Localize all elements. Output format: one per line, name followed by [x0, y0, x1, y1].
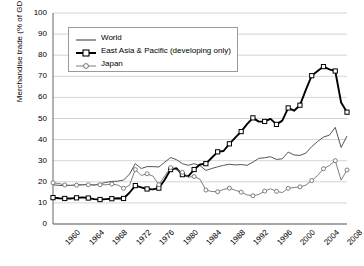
- legend-key-square-marker-icon: [75, 45, 97, 57]
- data-point: [110, 197, 114, 201]
- legend-label-world: World: [101, 33, 122, 42]
- data-point: [51, 196, 55, 200]
- data-point: [310, 179, 314, 183]
- data-point: [204, 188, 208, 192]
- data-point: [75, 183, 79, 187]
- data-point: [333, 159, 337, 163]
- data-point: [192, 175, 196, 179]
- data-point: [74, 196, 78, 200]
- data-point: [145, 172, 149, 176]
- y-axis-tick-label: 0: [17, 220, 47, 228]
- data-point: [286, 186, 290, 190]
- data-point: [216, 150, 220, 154]
- y-axis-tick-label: 50: [17, 115, 47, 123]
- data-point: [98, 183, 102, 187]
- data-point: [180, 170, 184, 174]
- data-point: [145, 187, 149, 191]
- data-point: [251, 116, 255, 120]
- y-axis-tick-label: 80: [17, 51, 47, 59]
- y-axis-tick-label: 30: [17, 157, 47, 165]
- data-point: [274, 122, 278, 126]
- data-point: [110, 182, 114, 186]
- data-point: [122, 186, 126, 190]
- data-point: [133, 184, 137, 188]
- legend-key-circle-marker-icon: [75, 58, 97, 70]
- legend-key-line-icon: [75, 32, 97, 44]
- data-point: [121, 196, 125, 200]
- legend-label-japan: Japan: [101, 59, 123, 68]
- data-point: [286, 106, 290, 110]
- data-point: [298, 185, 302, 189]
- data-point: [204, 162, 208, 166]
- data-point: [345, 168, 349, 172]
- data-point: [321, 167, 325, 171]
- data-point: [133, 168, 137, 172]
- data-point: [227, 186, 231, 190]
- data-point: [157, 183, 161, 187]
- legend-item-east-asia-pacific: East Asia & Pacific (developing only): [75, 44, 231, 57]
- data-point: [169, 166, 173, 170]
- legend-item-world: World: [75, 31, 122, 44]
- data-point: [216, 190, 220, 194]
- data-point: [321, 64, 325, 68]
- data-point: [298, 103, 302, 107]
- legend-item-japan: Japan: [75, 57, 123, 70]
- data-point: [63, 183, 67, 187]
- data-point: [98, 197, 102, 201]
- y-axis-tick-label: 70: [17, 72, 47, 80]
- y-axis-tick-label: 40: [17, 136, 47, 144]
- data-point: [333, 69, 337, 73]
- data-point: [345, 110, 349, 114]
- y-axis-tick-label: 90: [17, 30, 47, 38]
- data-point: [239, 190, 243, 194]
- data-point: [263, 119, 267, 123]
- data-point: [310, 74, 314, 78]
- data-point: [86, 196, 90, 200]
- data-point: [239, 129, 243, 133]
- data-point: [274, 189, 278, 193]
- legend-label-east-asia-pacific: East Asia & Pacific (developing only): [101, 46, 231, 55]
- y-axis-tick-label: 60: [17, 93, 47, 101]
- series-line-0: [53, 127, 347, 185]
- y-axis-tick-label: 20: [17, 178, 47, 186]
- data-point: [251, 194, 255, 198]
- data-point: [227, 142, 231, 146]
- data-point: [192, 167, 196, 171]
- data-point: [86, 183, 90, 187]
- data-point: [63, 196, 67, 200]
- data-point: [263, 189, 267, 193]
- y-axis-tick-label: 10: [17, 199, 47, 207]
- chart-legend: World East Asia & Pacific (developing on…: [68, 27, 238, 72]
- data-point: [51, 181, 55, 185]
- y-axis-tick-label: 100: [17, 9, 47, 17]
